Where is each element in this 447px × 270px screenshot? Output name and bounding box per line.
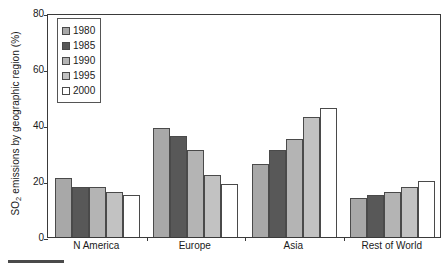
- legend-swatch-icon: [62, 72, 70, 80]
- legend-swatch-icon: [62, 87, 70, 95]
- legend-swatch-icon: [62, 42, 70, 50]
- legend-item: 1985: [62, 38, 95, 53]
- x-axis-tick-label: Rest of World: [362, 240, 422, 252]
- y-axis-tick-label: 80: [22, 9, 44, 19]
- bar: [153, 128, 170, 237]
- bar: [350, 198, 367, 237]
- x-axis-tick-label: N America: [73, 240, 119, 252]
- x-axis-tick-label: Asia: [284, 240, 303, 252]
- y-axis-tick-mark: [44, 71, 48, 72]
- legend-item: 2000: [62, 83, 95, 98]
- y-axis-tick-mark: [44, 127, 48, 128]
- y-axis-tick-label: 60: [22, 65, 44, 75]
- bar: [418, 181, 435, 237]
- bar: [320, 108, 337, 237]
- legend-item: 1995: [62, 68, 95, 83]
- footer-rule: [8, 260, 64, 263]
- bar: [252, 164, 269, 237]
- legend-item: 1980: [62, 23, 95, 38]
- legend-item: 1990: [62, 53, 95, 68]
- legend-swatch-icon: [62, 27, 70, 35]
- bar: [384, 192, 401, 237]
- bar-group: [147, 15, 246, 237]
- y-axis-tick-labels: 020406080: [20, 0, 44, 270]
- y-axis-tick-mark: [44, 183, 48, 184]
- y-axis-tick-label: 20: [22, 177, 44, 187]
- bar: [106, 192, 123, 237]
- bar: [123, 195, 140, 237]
- y-axis-tick-label: 0: [22, 233, 44, 243]
- bar: [269, 150, 286, 237]
- legend-item-label: 1985: [73, 41, 95, 51]
- bar-group: [245, 15, 344, 237]
- legend-swatch-icon: [62, 57, 70, 65]
- bar: [286, 139, 303, 237]
- bar: [221, 184, 238, 237]
- y-axis-tick-label: 40: [22, 121, 44, 131]
- legend-item-label: 1980: [73, 26, 95, 36]
- chart-figure: SO2 emissions by geographic region (%) 0…: [0, 0, 447, 270]
- bar-group: [344, 15, 443, 237]
- plot-area: [47, 14, 441, 238]
- bar: [170, 136, 187, 237]
- bar: [367, 195, 384, 237]
- bar: [187, 150, 204, 237]
- y-axis-tick-mark: [44, 15, 48, 16]
- x-axis-tick-label: Europe: [179, 240, 211, 252]
- legend-item-label: 2000: [73, 86, 95, 96]
- bar-groups: [48, 15, 440, 237]
- bar: [72, 187, 89, 237]
- chart-legend: 19801985199019952000: [57, 18, 101, 103]
- bar: [55, 178, 72, 237]
- legend-item-label: 1995: [73, 71, 95, 81]
- bar: [204, 175, 221, 237]
- bar: [401, 187, 418, 237]
- x-axis-tick-labels: N AmericaEuropeAsiaRest of World: [47, 240, 441, 256]
- bar: [89, 187, 106, 237]
- legend-item-label: 1990: [73, 56, 95, 66]
- bar: [303, 117, 320, 237]
